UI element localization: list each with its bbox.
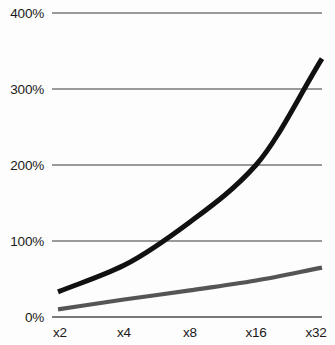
x-axis-tick-label: x2 — [53, 325, 67, 340]
y-axis-tick-label: 100% — [10, 234, 44, 249]
y-axis-tick-label: 0% — [25, 310, 44, 325]
series-line-lower-curve — [58, 268, 322, 310]
series-line-upper-curve — [58, 59, 322, 292]
x-axis-tick-label: x16 — [245, 325, 266, 340]
x-axis-tick-labels: x2x4x8x16x32 — [53, 325, 327, 340]
x-axis-tick-label: x8 — [183, 325, 197, 340]
gridlines-group — [52, 13, 322, 317]
chart-container: 0%100%200%300%400% x2x4x8x16x32 — [0, 0, 335, 345]
series-group — [58, 59, 322, 310]
y-axis-tick-label: 400% — [10, 6, 44, 21]
y-axis-tick-label: 300% — [10, 82, 44, 97]
y-axis-tick-labels: 0%100%200%300%400% — [10, 6, 44, 325]
line-chart: 0%100%200%300%400% x2x4x8x16x32 — [0, 0, 335, 345]
x-axis-tick-label: x4 — [117, 325, 132, 340]
x-axis-tick-label: x32 — [305, 325, 326, 340]
y-axis-tick-label: 200% — [10, 158, 44, 173]
